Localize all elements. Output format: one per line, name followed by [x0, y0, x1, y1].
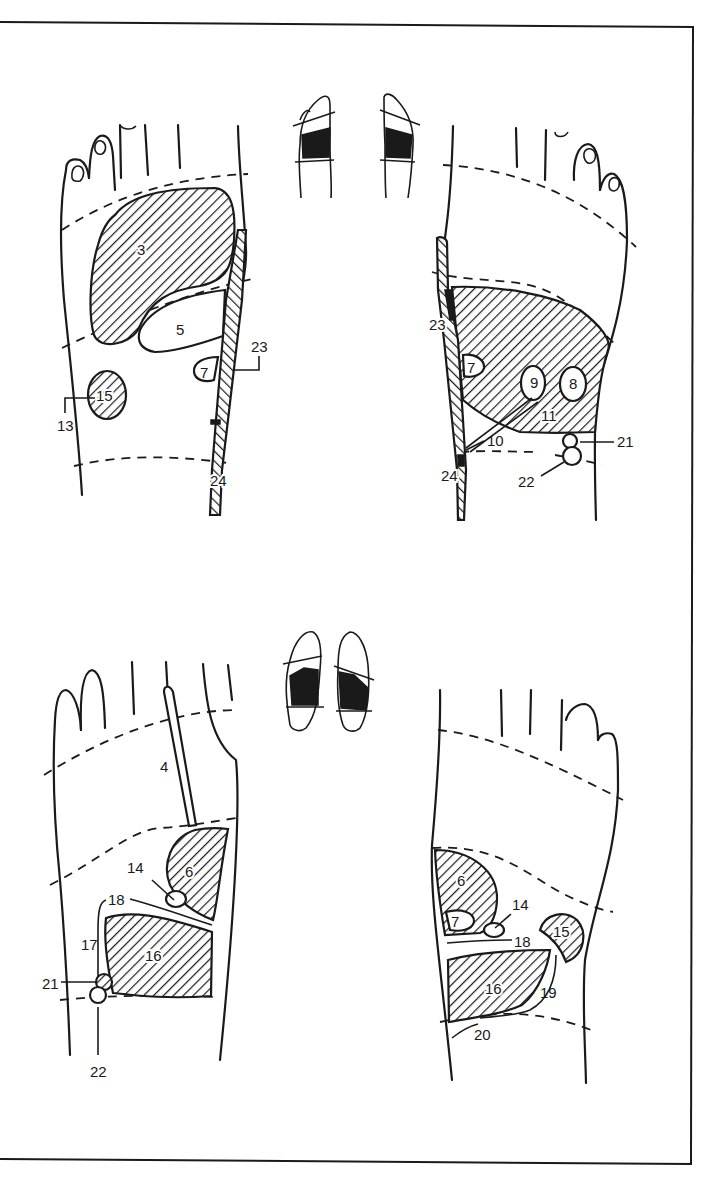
- zone-line: [44, 710, 238, 775]
- zone-21: [563, 434, 577, 448]
- zone-label: 24: [441, 467, 458, 484]
- zone-line: [438, 730, 623, 800]
- zone-label: 23: [251, 338, 268, 355]
- zone-label: 7: [451, 913, 459, 930]
- pointer-22: [541, 462, 564, 476]
- zone-label: 24: [210, 472, 227, 489]
- zone-label: 16: [485, 980, 502, 997]
- zone-22: [90, 987, 106, 1003]
- zone-label: 14: [512, 896, 529, 913]
- zone-18: [447, 940, 512, 943]
- zone-label: 6: [457, 872, 465, 889]
- panel-top-right-dorsal-foot: [432, 126, 636, 520]
- zone-label: 8: [569, 375, 577, 392]
- zone-label: 9: [530, 374, 538, 391]
- zone-label: 5: [176, 321, 184, 338]
- spine-marker: [458, 455, 464, 466]
- zone-14: [484, 923, 504, 937]
- spine-marker: [211, 420, 220, 424]
- pointer-23: [234, 356, 259, 370]
- zone-label: 15: [96, 387, 113, 404]
- zone-label: 15: [553, 923, 570, 940]
- zone-label: 23: [429, 316, 446, 333]
- zone-label: 18: [108, 891, 125, 908]
- zone-label: 6: [185, 863, 193, 880]
- zone-label: 7: [467, 359, 475, 376]
- zone-label: 14: [127, 859, 144, 876]
- zone-label: 7: [200, 364, 208, 381]
- zone-label: 11: [541, 407, 557, 424]
- zone-label: 21: [617, 433, 634, 450]
- zone-label: 13: [57, 417, 74, 434]
- panel-top-left-dorsal-foot: [61, 125, 259, 515]
- zone-22: [563, 447, 581, 465]
- zone-line: [74, 457, 228, 466]
- zone-label: 19: [540, 984, 557, 1001]
- zone-label: 22: [518, 473, 535, 490]
- zone-4: [164, 687, 196, 826]
- zone-label: 16: [145, 947, 162, 964]
- zone-label: 17: [81, 936, 98, 953]
- zone-label: 4: [160, 758, 168, 775]
- zone-label: 20: [474, 1026, 491, 1043]
- zone-14: [166, 891, 186, 907]
- thumbnail-dorsal-pair: [293, 94, 420, 198]
- zone-label: 18: [514, 933, 531, 950]
- zone-label: 22: [90, 1063, 107, 1080]
- thumbnail-plantar-pair: [283, 632, 374, 731]
- zone-label: 10: [487, 432, 504, 449]
- zone-label: 21: [42, 975, 59, 992]
- zone-line: [443, 165, 636, 247]
- zone-label: 3: [137, 241, 145, 258]
- foot-reflexology-diagram: 3 5 23 7 15 13 24 23 7 9 8 11 10 21 24 2…: [0, 0, 723, 1191]
